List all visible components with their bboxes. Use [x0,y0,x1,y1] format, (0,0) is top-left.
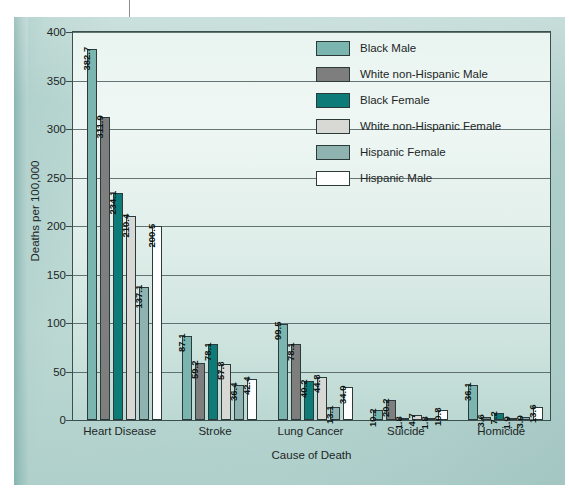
legend-swatch [316,145,350,160]
legend-label: Black Male [360,42,416,54]
legend-item[interactable]: Hispanic Male [316,167,536,189]
bar[interactable]: 13.1 [330,407,340,420]
bar-value-label: 137.1 [133,285,144,309]
bar[interactable]: 13.6 [533,407,543,420]
chart-card: 050100150200250300350400 Deaths per 100,… [14,17,565,485]
bar-value-label: 10.8 [432,408,443,427]
bar-value-label: 210.4 [120,214,131,238]
bar-value-label: 13.6 [527,405,538,424]
legend-label: Hispanic Female [360,146,446,158]
y-tick-label: 200 [47,220,66,232]
bar[interactable]: 382.7 [87,49,97,420]
bar-value-label: 311.9 [94,115,105,138]
x-tick-label: Suicide [358,425,453,437]
bar-value-label: 78.1 [285,342,296,361]
bar[interactable]: 137.1 [139,287,149,420]
bar[interactable]: 78.1 [208,344,218,420]
bar[interactable]: 34.0 [343,387,353,420]
y-tick-label: 250 [47,172,66,184]
bar[interactable]: 10.8 [438,410,448,420]
legend-item[interactable]: White non-Hispanic Male [316,63,536,85]
bar-value-label: 99.5 [272,322,283,341]
legend-item[interactable]: Hispanic Female [316,141,536,163]
y-tick-label: 300 [47,123,66,135]
bar-value-label: 13.1 [324,405,335,424]
bar-value-label: 44.8 [311,375,322,394]
x-axis-title: Cause of Death [72,449,551,461]
bar-group: 87.159.278.157.836.442.4 [182,32,258,420]
y-tick-label: 100 [47,317,66,329]
bar[interactable]: 210.4 [126,216,136,420]
bar[interactable]: 311.9 [100,117,110,420]
legend-swatch [316,41,350,56]
bar-value-label: 78.1 [202,342,213,361]
legend-label: White non-Hispanic Female [360,120,501,132]
legend-label: White non-Hispanic Male [360,68,488,80]
legend-item[interactable]: White non-Hispanic Female [316,115,536,137]
legend-label: Hispanic Male [360,172,432,184]
y-tick-label: 150 [47,269,66,281]
x-tick-label: Lung Cancer [263,425,358,437]
legend-swatch [316,67,350,82]
y-axis-tick-labels: 050100150200250300350400 [20,31,66,421]
bar-value-label: 10.2 [367,408,378,427]
bar-value-label: 7.2 [488,411,499,424]
y-tick-label: 400 [47,26,66,38]
legend-item[interactable]: Black Female [316,89,536,111]
bar-value-label: 20.2 [380,398,391,417]
legend: Black MaleWhite non-Hispanic MaleBlack F… [316,37,536,193]
x-tick-label: Stroke [167,425,262,437]
legend-swatch [316,119,350,134]
y-tick-label: 350 [47,75,66,87]
y-axis-title: Deaths per 100,000 [29,126,41,296]
bar-value-label: 36.1 [462,383,473,402]
legend-swatch [316,93,350,108]
bar-value-label: 57.8 [215,362,226,381]
bar-value-label: 42.4 [241,377,252,396]
bar-value-label: 382.7 [81,47,92,71]
bar-value-label: 234.1 [107,191,118,215]
bar-value-label: 59.2 [189,361,200,380]
bar[interactable]: 42.4 [247,379,257,420]
bar[interactable]: 59.2 [195,363,205,420]
legend-swatch [316,171,350,186]
bar-group: 382.7311.9234.1210.4137.1200.5 [87,32,163,420]
legend-label: Black Female [360,94,430,106]
x-tick-label: Homicide [454,425,549,437]
bar-value-label: 87.1 [176,334,187,353]
x-tick-label: Heart Disease [72,425,167,437]
legend-item[interactable]: Black Male [316,37,536,59]
bar[interactable]: 99.5 [278,324,288,421]
bar-value-label: 34.0 [337,385,348,404]
bar-value-label: 36.4 [228,383,239,402]
bar-value-label: 40.2 [298,379,309,398]
bar[interactable]: 200.5 [152,226,162,420]
chart-screenshot: 050100150200250300350400 Deaths per 100,… [0,0,569,494]
bar-value-label: 200.5 [146,224,157,248]
y-tick-label: 50 [53,366,66,378]
